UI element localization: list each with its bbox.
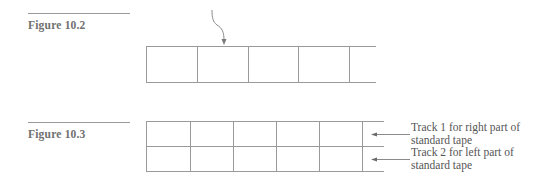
track-1-label-line2: standard tape <box>411 134 520 147</box>
track-2-label-line1: Track 2 for left part of <box>411 146 514 159</box>
track-1-arrow-icon <box>371 133 410 137</box>
track-2-arrow-icon <box>371 158 410 162</box>
track-2-label: Track 2 for left part of standard tape <box>411 146 514 171</box>
two-track-tape <box>146 121 384 172</box>
single-track-tape <box>146 46 376 83</box>
track-1-label: Track 1 for right part of standard tape <box>411 121 520 146</box>
head-arrow-icon <box>212 10 227 45</box>
track-2-label-line2: standard tape <box>411 159 514 172</box>
track-1-label-line1: Track 1 for right part of <box>411 121 520 134</box>
